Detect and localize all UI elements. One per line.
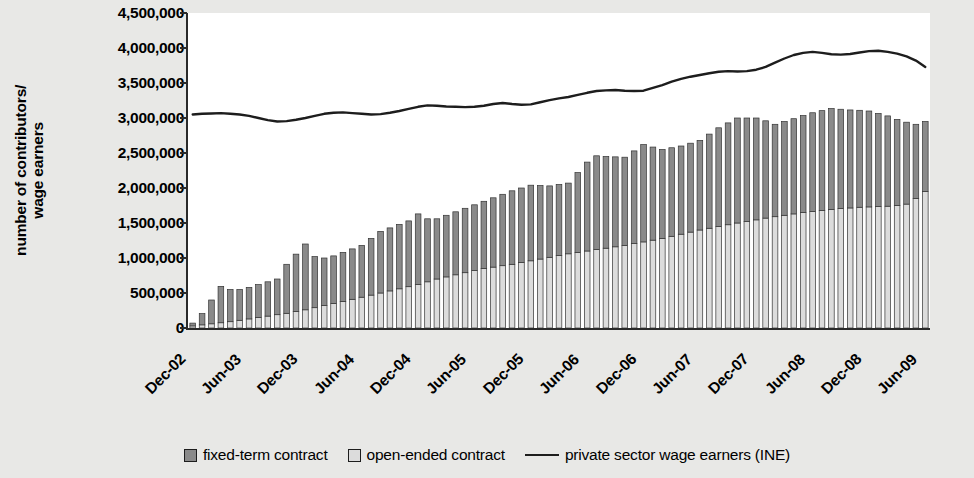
legend-item: open-ended contract (348, 446, 505, 464)
bar-segment-fixed-term (753, 118, 759, 220)
bar-segment-open-ended (500, 266, 506, 328)
bar-segment-fixed-term (904, 122, 910, 204)
bar-segment-fixed-term (622, 157, 628, 245)
plot-area (186, 13, 930, 330)
bar-segment-open-ended (556, 256, 562, 328)
bar-segment-fixed-term (350, 249, 356, 299)
bar-segment-fixed-term (481, 201, 487, 268)
bar-segment-fixed-term (519, 188, 525, 263)
bar-segment-open-ended (528, 261, 534, 328)
x-tick-label: Jun-09 (874, 351, 921, 398)
bar-segment-fixed-term (641, 145, 647, 242)
bar-segment-open-ended (885, 206, 891, 328)
bar-segment-fixed-term (791, 119, 797, 214)
bar-segment-open-ended (387, 291, 393, 328)
legend-label: open-ended contract (367, 446, 505, 464)
line-series-layer (193, 51, 926, 122)
bar-segment-fixed-term (528, 185, 534, 261)
bar-segment-fixed-term (735, 118, 741, 223)
bar-segment-open-ended (753, 220, 759, 328)
x-tick-label: Jun-03 (198, 351, 245, 398)
bar-segment-open-ended (537, 259, 543, 328)
bar-segment-fixed-term (678, 146, 684, 234)
x-tick-label: Dec-06 (592, 350, 640, 398)
bar-segment-fixed-term (594, 156, 600, 250)
bar-segment-open-ended (631, 244, 637, 328)
bar-segment-fixed-term (462, 208, 468, 272)
bar-segment-open-ended (397, 289, 403, 328)
bar-segment-fixed-term (303, 244, 309, 310)
bar-segment-open-ended (706, 228, 712, 328)
legend-color-swatch-icon (348, 449, 361, 462)
bar-segment-fixed-term (613, 157, 619, 247)
bar-segment-fixed-term (603, 157, 609, 249)
bar-segment-open-ended (199, 325, 205, 328)
bar-segment-open-ended (603, 248, 609, 328)
bar-segment-fixed-term (274, 279, 280, 315)
bar-segment-fixed-term (725, 123, 731, 225)
x-tick-label: Jun-04 (310, 351, 357, 398)
bar-segment-open-ended (688, 232, 694, 328)
bar-segment-fixed-term (265, 282, 271, 316)
bar-segment-open-ended (331, 304, 337, 329)
bar-segment-fixed-term (556, 185, 562, 256)
bar-segment-fixed-term (425, 219, 431, 282)
legend-line-swatch-icon (525, 454, 559, 456)
bar-segment-fixed-term (819, 111, 825, 211)
x-tick-label: Jun-06 (536, 351, 583, 398)
bar-segment-fixed-term (838, 109, 844, 208)
bar-segment-open-ended (443, 277, 449, 328)
bar-segment-fixed-term (847, 110, 853, 208)
bar-segment-fixed-term (584, 162, 590, 251)
bar-segment-fixed-term (782, 122, 788, 216)
bar-segment-open-ended (594, 250, 600, 328)
bar-segment-open-ended (547, 257, 553, 328)
bar-segment-open-ended (669, 236, 675, 328)
bar-segment-open-ended (922, 192, 928, 329)
y-tick-label: 4,500,000 (58, 4, 184, 22)
bar-segment-fixed-term (415, 214, 421, 285)
x-tick-label: Dec-03 (254, 350, 302, 398)
bar-segment-open-ended (782, 215, 788, 328)
bar-segment-open-ended (481, 269, 487, 329)
plot-svg (188, 13, 930, 328)
bar-segment-open-ended (350, 299, 356, 328)
bar-segment-open-ended (256, 318, 262, 329)
bar-segment-fixed-term (697, 140, 703, 230)
bar-segment-open-ended (462, 273, 468, 328)
bar-segment-fixed-term (744, 118, 750, 222)
bar-segment-fixed-term (443, 215, 449, 277)
bar-segment-fixed-term (227, 290, 233, 322)
bar-segment-open-ended (368, 295, 374, 328)
bar-segment-fixed-term (368, 238, 374, 295)
bar-segment-fixed-term (857, 110, 863, 207)
bar-segment-open-ended (791, 214, 797, 328)
bar-segment-fixed-term (688, 143, 694, 232)
bars-layer (188, 109, 930, 328)
bar-segment-open-ended (876, 207, 882, 328)
bar-segment-fixed-term (772, 124, 778, 216)
bar-segment-fixed-term (537, 186, 543, 259)
bar-segment-fixed-term (209, 300, 215, 324)
bar-segment-fixed-term (331, 256, 337, 304)
bar-segment-open-ended (293, 312, 299, 328)
y-tick-label: 2,000,000 (58, 179, 184, 197)
bar-segment-open-ended (913, 199, 919, 329)
x-tick-label: Dec-07 (705, 350, 753, 398)
y-axis-title: number of contributors/ wage earners (2, 0, 58, 340)
legend-label: fixed-term contract (203, 446, 328, 464)
bar-segment-fixed-term (922, 122, 928, 192)
bar-segment-open-ended (819, 210, 825, 328)
bar-segment-fixed-term (237, 290, 243, 321)
bar-segment-fixed-term (387, 228, 393, 291)
bar-segment-open-ended (490, 267, 496, 328)
bar-segment-fixed-term (218, 286, 224, 322)
y-axis-title-line2: wage earners (30, 122, 47, 219)
bar-segment-open-ended (725, 225, 731, 328)
bar-segment-open-ended (227, 322, 233, 328)
bar-segment-open-ended (584, 251, 590, 328)
x-tick-label: Dec-02 (141, 350, 189, 398)
bar-segment-open-ended (904, 204, 910, 328)
legend-color-swatch-icon (184, 449, 197, 462)
bar-segment-open-ended (265, 316, 271, 328)
